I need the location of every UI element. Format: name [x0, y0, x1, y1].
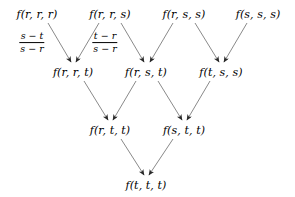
node-label: f(r, r, t) — [53, 67, 93, 78]
weight-numerator: t − r — [92, 31, 117, 42]
node-label: f(s, t, t) — [163, 125, 205, 136]
weight-denominator: s − r — [92, 43, 117, 55]
edge-arrow — [158, 81, 182, 120]
node-label: f(r, s, s) — [163, 9, 206, 20]
edge-arrow — [84, 81, 108, 120]
node-label: f(r, s, t) — [125, 67, 167, 78]
lattice-diagram: f(r, r, r)f(r, r, s)f(r, s, s)f(s, s, s)… — [0, 0, 295, 197]
weight-left: s − ts − r — [19, 31, 44, 55]
weight-numerator: s − t — [19, 31, 44, 42]
edge-arrow — [121, 23, 144, 62]
node-label: f(r, r, s) — [89, 9, 130, 20]
edge-arrow — [150, 23, 173, 62]
edge-arrow — [149, 139, 173, 175]
edge-arrow — [113, 81, 136, 120]
node-label: f(t, t, t) — [126, 180, 167, 191]
edge-arrow — [187, 81, 210, 120]
node-label: f(t, s, s) — [199, 67, 242, 78]
edge-arrow — [121, 139, 144, 175]
edge-group — [48, 23, 247, 175]
weight-right: t − rs − r — [92, 31, 117, 55]
edge-arrow — [48, 23, 71, 62]
node-label: f(r, r, r) — [17, 9, 58, 20]
weight-denominator: s − r — [19, 43, 44, 55]
edge-arrow — [195, 23, 219, 62]
edge-arrow — [224, 23, 247, 62]
node-label: f(s, s, s) — [236, 9, 281, 20]
node-label: f(r, t, t) — [90, 125, 131, 136]
edge-layer — [0, 0, 295, 197]
